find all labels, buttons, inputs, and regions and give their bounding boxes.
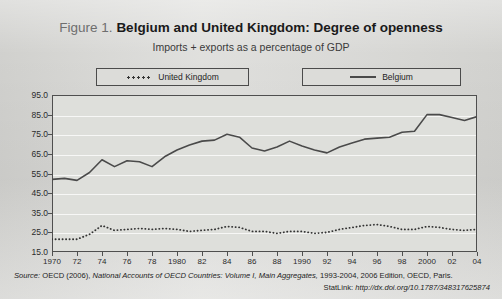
- source-citation: Source: OECD (2006), National Accounts o…: [14, 271, 453, 280]
- x-axis-tick-label: 04: [473, 257, 482, 266]
- x-axis-tick-label: 88: [273, 257, 282, 266]
- x-axis-tick-label: 74: [98, 257, 107, 266]
- legend-label-belgium: Belgium: [382, 72, 413, 82]
- y-axis-tick-label: 25.0: [14, 227, 48, 237]
- x-axis-tick-label: 2000: [418, 257, 436, 266]
- x-axis-tick-mark: [477, 252, 478, 256]
- x-axis-tick-mark: [102, 252, 103, 256]
- x-axis-tick-label: 94: [348, 257, 357, 266]
- x-axis-tick-mark: [77, 252, 78, 256]
- source-prefix: Source:: [14, 271, 40, 280]
- x-axis-tick-label: 1990: [293, 257, 311, 266]
- source-title: National Accounts of OECD Countries: Vol…: [93, 271, 318, 280]
- x-axis-tick-mark: [402, 252, 403, 256]
- y-axis-tick-label: 15.0: [14, 247, 48, 257]
- x-axis-tick-mark: [302, 252, 303, 256]
- legend-item-belgium: Belgium: [302, 68, 461, 86]
- statlink-label: StatLink:: [324, 283, 354, 292]
- x-axis-tick-label: 84: [223, 257, 232, 266]
- x-axis-tick-mark: [202, 252, 203, 256]
- y-axis-tick-label: 45.0: [14, 188, 48, 198]
- statlink-url[interactable]: http://dx.doi.org/10.1787/348317625874: [355, 283, 490, 292]
- figure-subtitle: Imports + exports as a percentage of GDP: [0, 41, 502, 53]
- x-axis-tick-mark: [52, 252, 53, 256]
- x-axis-tick-label: 1980: [168, 257, 186, 266]
- x-axis-tick-mark: [152, 252, 153, 256]
- series-line-united-kingdom: [52, 225, 477, 240]
- x-axis-tick-label: 76: [123, 257, 132, 266]
- y-axis-tick-label: 85.0: [14, 110, 48, 120]
- x-axis-tick-label: 82: [198, 257, 207, 266]
- x-axis-tick-mark: [252, 252, 253, 256]
- x-axis-tick-label: 1970: [43, 257, 61, 266]
- y-axis-tick-label: 55.0: [14, 169, 48, 179]
- solid-line-icon: [350, 76, 376, 78]
- x-axis-tick-label: 86: [248, 257, 257, 266]
- x-axis-tick-mark: [327, 252, 328, 256]
- x-axis-tick-label: 96: [373, 257, 382, 266]
- y-axis-tick-label: 65.0: [14, 149, 48, 159]
- x-axis-tick-mark: [427, 252, 428, 256]
- y-axis-tick-label: 75.0: [14, 129, 48, 139]
- x-axis-tick-mark: [377, 252, 378, 256]
- x-axis-tick-mark: [227, 252, 228, 256]
- data-series-layer: [52, 95, 477, 252]
- x-axis-tick-label: 78: [148, 257, 157, 266]
- x-axis-tick-label: 02: [448, 257, 457, 266]
- source-publisher: OECD (2006),: [42, 271, 90, 280]
- x-axis-tick-mark: [177, 252, 178, 256]
- x-axis-tick-mark: [452, 252, 453, 256]
- x-axis-tick-label: 92: [323, 257, 332, 266]
- y-axis-tick-label: 35.0: [14, 208, 48, 218]
- x-axis-tick-mark: [352, 252, 353, 256]
- x-axis-tick-mark: [127, 252, 128, 256]
- legend-item-united-kingdom: United Kingdom: [96, 68, 249, 86]
- dotted-line-icon: [126, 76, 152, 79]
- source-edition: 1993-2004, 2006 Edition, OECD, Paris.: [320, 271, 453, 280]
- figure-title-text: Belgium and United Kingdom: Degree of op…: [116, 20, 442, 35]
- figure-label: Figure 1.: [59, 20, 112, 35]
- x-axis-tick-label: 72: [73, 257, 82, 266]
- statlink[interactable]: StatLink: http://dx.doi.org/10.1787/3483…: [324, 283, 490, 292]
- page-title: Figure 1. Belgium and United Kingdom: De…: [0, 20, 502, 35]
- figure-page: Figure 1. Belgium and United Kingdom: De…: [0, 0, 502, 299]
- y-axis-tick-label: 95.0: [14, 90, 48, 100]
- x-axis-tick-mark: [277, 252, 278, 256]
- legend-label-united-kingdom: United Kingdom: [158, 72, 218, 82]
- series-line-belgium: [52, 115, 477, 181]
- x-axis-tick-label: 98: [398, 257, 407, 266]
